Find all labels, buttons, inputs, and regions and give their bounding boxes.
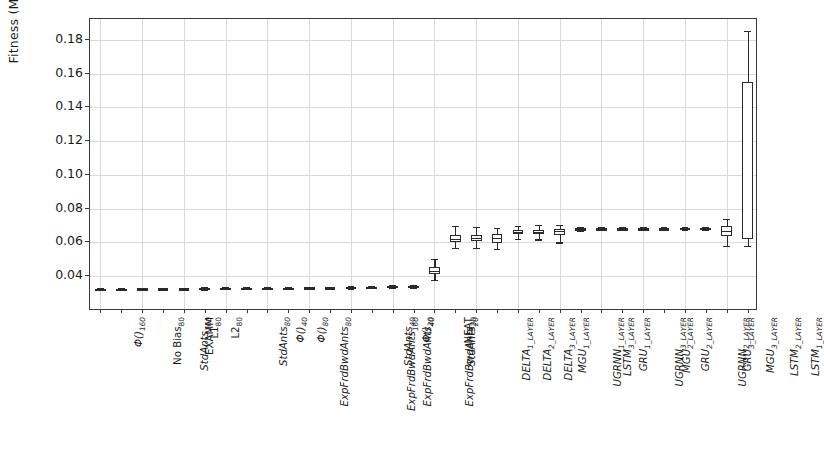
y-axis-tick-mark — [85, 73, 89, 74]
x-axis-tick-label-StdAnts80: StdAnts80 — [278, 317, 292, 366]
cap-lower — [160, 290, 167, 291]
cap-upper — [598, 227, 605, 228]
whisker-upper — [748, 31, 749, 82]
cap-lower — [118, 290, 125, 291]
x-axis-tick-mark — [455, 309, 456, 313]
gridline-horizontal — [90, 209, 756, 210]
y-axis-label: Fitness (MAE) — [6, 0, 21, 100]
cap-lower — [431, 280, 438, 281]
box-iqr — [742, 82, 753, 239]
cap-lower — [619, 230, 626, 231]
box-median-line — [533, 232, 544, 233]
cap-upper — [97, 288, 104, 289]
box-median-line — [429, 271, 440, 272]
cap-lower — [327, 289, 334, 290]
box-median-line — [492, 238, 503, 239]
x-axis-tick-label-Φ()160: Φ()160 — [134, 317, 148, 347]
gridline-horizontal — [90, 175, 756, 176]
x-axis-tick-mark — [142, 309, 143, 313]
box-median-line — [513, 232, 524, 233]
y-axis-tick-mark — [85, 39, 89, 40]
gridline-vertical — [393, 19, 394, 309]
cap-upper — [327, 287, 334, 288]
x-axis-tick-mark — [685, 309, 686, 313]
cap-lower — [640, 230, 647, 231]
x-axis-tick-mark — [309, 309, 310, 313]
cap-lower — [577, 231, 584, 232]
cap-upper — [160, 288, 167, 289]
x-axis-tick-mark — [247, 309, 248, 313]
cap-upper — [368, 286, 375, 287]
whisker-upper — [455, 226, 456, 235]
cap-lower — [452, 248, 459, 249]
cap-lower — [368, 288, 375, 289]
y-axis-tick-label: 0.04 — [13, 267, 83, 282]
x-axis-tick-label-MGU1_LAYER: MGU1_LAYER — [577, 317, 591, 373]
whisker-lower — [727, 236, 728, 246]
x-axis-tick-label-MGU3_LAYER: MGU3_LAYER — [765, 317, 779, 373]
gridline-vertical — [685, 19, 686, 309]
gridline-vertical — [309, 19, 310, 309]
cap-upper — [118, 288, 125, 289]
y-axis-tick-mark — [85, 174, 89, 175]
gridline-vertical — [560, 19, 561, 309]
cap-lower — [744, 246, 751, 247]
cap-upper — [222, 287, 229, 288]
cap-upper — [139, 288, 146, 289]
y-axis-tick-label: 0.14 — [13, 98, 83, 113]
y-axis-tick-label: 0.18 — [13, 31, 83, 46]
gridline-vertical — [184, 19, 185, 309]
y-axis-tick-label: 0.16 — [13, 65, 83, 80]
x-axis-tick-label-Φ()80: Φ()80 — [317, 317, 331, 342]
whisker-upper — [476, 227, 477, 235]
cap-upper — [431, 259, 438, 260]
cap-lower — [473, 248, 480, 249]
gridline-vertical — [601, 19, 602, 309]
cap-lower — [285, 289, 292, 290]
x-axis-tick-mark — [581, 309, 582, 313]
cap-lower — [494, 249, 501, 250]
gridline-horizontal — [90, 242, 756, 243]
gridline-vertical — [267, 19, 268, 309]
y-axis-tick-label: 0.08 — [13, 200, 83, 215]
x-axis-tick-label-MGU2_LAYER: MGU2_LAYER — [681, 317, 695, 373]
box-median-line — [554, 231, 565, 232]
cap-upper — [682, 227, 689, 228]
x-axis-tick-mark — [622, 309, 623, 313]
y-axis-tick-mark — [85, 140, 89, 141]
x-axis-tick-mark — [664, 309, 665, 313]
x-axis-tick-mark — [351, 309, 352, 313]
box-median-line — [450, 239, 461, 240]
cap-lower — [598, 230, 605, 231]
gridline-horizontal — [90, 40, 756, 41]
x-axis-tick-label-GRU1_LAYER: GRU1_LAYER — [638, 317, 652, 371]
x-axis-tick-mark — [434, 309, 435, 313]
x-axis-tick-mark — [643, 309, 644, 313]
box-median-line — [721, 231, 732, 232]
cap-upper — [264, 287, 271, 288]
x-axis-tick-label-LSTM3_LAYER: LSTM3_LAYER — [622, 317, 636, 376]
x-axis-tick-mark — [184, 309, 185, 313]
cap-upper — [535, 225, 542, 226]
cap-lower — [682, 230, 689, 231]
whisker-upper — [434, 259, 435, 267]
x-axis-tick-mark — [163, 309, 164, 313]
cap-upper — [702, 227, 709, 228]
cap-lower — [702, 230, 709, 231]
x-axis-tick-mark — [372, 309, 373, 313]
cap-lower — [201, 290, 208, 291]
gridline-vertical — [518, 19, 519, 309]
cap-lower — [181, 290, 188, 291]
cap-upper — [243, 287, 250, 288]
cap-lower — [264, 289, 271, 290]
gridline-vertical — [727, 19, 728, 309]
y-axis-tick-mark — [85, 208, 89, 209]
x-axis-tick-label-L280: L280 — [229, 317, 243, 339]
x-axis-tick-mark — [706, 309, 707, 313]
x-axis-tick-label-ExpFrdBwdAnts80: ExpFrdBwdAnts80 — [339, 317, 353, 406]
x-axis-tick-mark — [727, 309, 728, 313]
y-axis-tick-label: 0.10 — [13, 166, 83, 181]
whisker-lower — [748, 239, 749, 246]
cap-upper — [452, 226, 459, 227]
